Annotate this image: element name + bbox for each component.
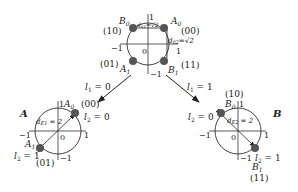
top-constellation: 1 1 −1 −1 0 B0 (10) A0 (00) (01) A1 B1 (… (100, 13, 199, 79)
origin-label: 0 (60, 133, 65, 142)
l2-A0: l2 = 0 (84, 112, 110, 123)
code-B1: (11) (250, 173, 268, 183)
origin-label: 0 (142, 47, 147, 56)
d02-label: d02=√2 (168, 37, 194, 45)
dE2-label: dE2 = 2 (227, 117, 254, 125)
point-B0 (129, 24, 137, 32)
label-A0: A0 (63, 99, 75, 110)
branch-left-label: l1 = 0 (85, 82, 111, 93)
code-A0: (00) (181, 26, 199, 36)
y-pos-tick: 1 (239, 100, 244, 109)
subset-A-title: A (19, 108, 28, 119)
code-A1: (01) (36, 158, 54, 168)
x-pos-tick: 1 (84, 131, 89, 140)
label-A1: A1 (119, 64, 130, 75)
x-neg-tick: −1 (199, 131, 211, 140)
point-A1 (129, 57, 137, 65)
point-B1 (251, 144, 259, 152)
code-B0: (10) (225, 89, 243, 99)
y-neg-tick: −1 (240, 154, 252, 163)
x-pos-tick: 1 (176, 47, 181, 56)
l2-B0: l2 = 0 (188, 112, 214, 123)
set-partitioning-diagram: 1 1 −1 −1 0 B0 (10) A0 (00) (01) A1 B1 (… (0, 0, 298, 192)
code-A0: (00) (81, 99, 99, 109)
label-A1: A1 (24, 139, 35, 150)
x-neg-tick: −1 (111, 44, 123, 53)
branches: l1 = 0 l1 = 1 (85, 75, 213, 102)
origin-label: 0 (231, 133, 236, 142)
point-B0 (217, 109, 225, 117)
label-A0: A0 (170, 16, 182, 27)
code-B1: (11) (181, 60, 199, 70)
y-neg-tick: −1 (150, 70, 162, 79)
point-A0 (160, 24, 168, 32)
point-B1 (160, 57, 168, 65)
l2-B1: l2 = 1 (255, 153, 281, 164)
x-pos-tick: 1 (264, 131, 269, 140)
subset-B: B 1 1 −1 −1 0 (10) B0 l2 = 0 l2 = 1 B1 (… (188, 89, 281, 183)
point-A0 (71, 109, 79, 117)
label-B1: B1 (167, 65, 178, 76)
dE1-label: dE1 = 2 (36, 118, 63, 126)
label-B0: B0 (224, 99, 236, 110)
y-neg-tick: −1 (60, 154, 72, 163)
subset-B-title: B (272, 108, 281, 119)
subset-A: A 1 1 −1 −1 0 A0 (00) l2 = 0 A1 l2 = 1 (… (14, 99, 110, 168)
code-B0: (10) (103, 26, 121, 36)
branch-right-label: l1 = 1 (187, 82, 213, 93)
d01-label: d01=√2 (137, 21, 159, 29)
code-A1: (01) (100, 59, 118, 69)
